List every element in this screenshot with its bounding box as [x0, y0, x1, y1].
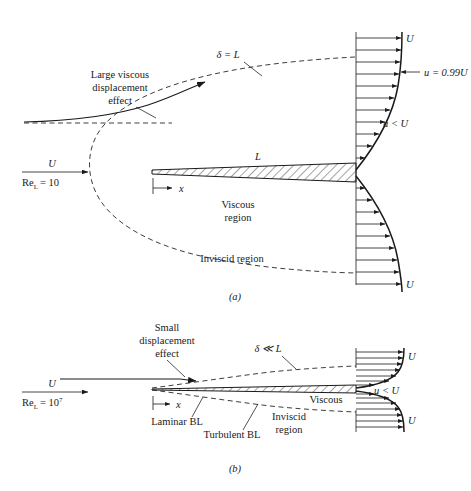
inviscid-region-a: Inviscid region [200, 253, 264, 264]
displacement-effect-group-b: Small displacement effect [139, 322, 194, 377]
turbulent-bl-label-b: Turbulent BL [203, 429, 260, 440]
viscous-region-line1-a: Viscous [221, 199, 254, 210]
inlet-U-label-b: U [48, 378, 57, 389]
u-top-label-b: U [408, 351, 417, 362]
x-label-a: x [178, 183, 184, 194]
u-top-label-a: U [406, 33, 415, 44]
laminar-bl-leader-b [192, 397, 203, 417]
inlet-U-label-a: U [48, 158, 57, 169]
reynolds-symbol-a: Re [22, 177, 34, 188]
displacement-effect-line3-b: effect [155, 348, 179, 359]
u-bottom-label-a: U [406, 279, 415, 290]
reynolds-symbol-b: Re [22, 397, 34, 408]
u-less-label-a: u < U [383, 118, 410, 129]
viscous-region-line2-a: region [225, 212, 253, 223]
velocity-vectors-upper-b [356, 352, 403, 385]
reynolds-label-b: ReL= 107 [22, 396, 63, 411]
reynolds-subscript-b: L [34, 403, 38, 411]
flat-plate-b [152, 385, 356, 393]
reynolds-value-b: = 10 [40, 397, 59, 408]
turbulent-bl-group-b: Turbulent BL [203, 404, 260, 440]
panel-a: U ReL= 10 δ = L Large viscous displaceme… [22, 32, 469, 303]
incoming-streamline-b [60, 379, 196, 381]
displacement-effect-line2-b: displacement [139, 335, 194, 346]
u-099-label-a: u = 0.99U [424, 67, 469, 78]
x-label-b: x [175, 399, 181, 410]
velocity-vectors-lower-a [356, 188, 401, 284]
panel-a-caption: (a) [229, 291, 242, 303]
turbulent-bl-leader-b [243, 404, 258, 430]
panel-b-inlet-velocity: U ReL= 107 [22, 378, 88, 411]
x-axis-group-b: x [153, 396, 181, 410]
u-less-label-b: u < U [374, 385, 401, 396]
reynolds-exponent-b: 7 [59, 396, 63, 404]
displacement-effect-line1-a: Large viscous [91, 69, 149, 80]
flat-plate-a [152, 163, 356, 182]
plate-length-label-a: L [254, 151, 261, 162]
u-bottom-label-b: U [408, 415, 417, 426]
panel-a-inlet-velocity: U ReL= 10 [22, 158, 88, 191]
displacement-effect-line1-b: Small [155, 322, 180, 333]
inviscid-region-line1-b: Inviscid [272, 411, 307, 422]
delta-label-group-a: δ = L [216, 49, 262, 76]
boundary-layer-figure: U ReL= 10 δ = L Large viscous displaceme… [0, 0, 471, 491]
delta-leader-b [282, 356, 296, 369]
delta-leader-a [244, 62, 262, 76]
panel-b-caption: (b) [229, 463, 242, 475]
delta-label-b: δ ≪ L [255, 343, 282, 354]
displacement-effect-group-a: Large viscous displacement effect [91, 69, 156, 118]
velocity-vectors-upper-a [356, 38, 401, 158]
velocity-vectors-lower-b [356, 394, 403, 427]
velocity-profile-lower-b [356, 391, 404, 432]
viscous-label-b: Viscous [309, 394, 342, 405]
displacement-effect-leader-b [167, 360, 185, 377]
displacement-effect-line2-a: displacement [92, 82, 147, 93]
velocity-profile-upper-a [356, 32, 402, 170]
reynolds-subscript-a: L [34, 183, 38, 191]
delta-label-a: δ = L [216, 49, 239, 60]
u-099-group-a: u = 0.99U [401, 67, 469, 78]
panel-b: U ReL= 107 Small displacement effect [22, 322, 417, 475]
delta-label-group-b: δ ≪ L [255, 343, 296, 369]
laminar-bl-label-b: Laminar BL [151, 416, 203, 427]
inviscid-region-line2-b: region [276, 424, 304, 435]
reynolds-value-a: = 10 [40, 177, 59, 188]
displacement-effect-leader-a [136, 107, 156, 118]
figure-root: U ReL= 10 δ = L Large viscous displaceme… [0, 0, 471, 491]
velocity-profile-lower-a [356, 176, 402, 292]
x-axis-group-a: x [153, 178, 184, 194]
reynolds-label-a: ReL= 10 [22, 177, 59, 191]
displacement-effect-line3-a: effect [108, 95, 132, 106]
velocity-profile-upper-b [356, 348, 404, 388]
bl-edge-upper-b [152, 366, 356, 388]
